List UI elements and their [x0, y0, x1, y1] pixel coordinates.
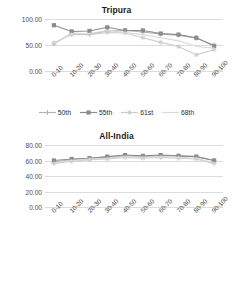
y-axis-tick-label: 100.00 [22, 16, 42, 23]
y-axis-tick-label: 0.00 [29, 68, 42, 75]
legend-marker-55th [80, 108, 97, 117]
y-axis-tick-label: 50.00 [25, 42, 42, 49]
legend-label: 61st [140, 109, 153, 116]
chart-panel-allindia: All-India 0.0020.0040.0060.0080.000-1010… [0, 128, 233, 285]
series-line-68th [54, 157, 214, 163]
y-axis-tick-label: 20.00 [25, 188, 42, 195]
legend-marker-61st [121, 108, 138, 117]
chart-title-tripura: Tripura [0, 0, 233, 15]
y-axis-tick-label: 40.00 [25, 173, 42, 180]
legend-marker-68th [162, 108, 179, 117]
y-axis-tick-label: 60.00 [25, 157, 42, 164]
series-line-68th [54, 30, 214, 48]
plot-area-tripura: 0.0050.00100.000-1010-2020-3030-4040-505… [0, 15, 233, 110]
legend-label: 55th [99, 109, 112, 116]
plot-area-allindia: 0.0020.0040.0060.0080.000-1010-2020-3030… [0, 141, 233, 246]
chart-legend-tripura: 50th55th61st68th [0, 108, 233, 117]
legend-label: 50th [58, 109, 71, 116]
plot-canvas [45, 145, 223, 207]
legend-item-50th[interactable]: 50th [39, 108, 71, 117]
series-line-50th [54, 30, 214, 45]
chart-panel-tripura: Tripura 0.0050.00100.000-1010-2020-3030-… [0, 0, 233, 128]
series-line-61st [54, 33, 214, 55]
y-axis-tick-label: 80.00 [25, 142, 42, 149]
legend-label: 68th [181, 109, 194, 116]
series-group [45, 145, 223, 207]
chart-title-allindia: All-India [0, 128, 233, 141]
legend-item-61st[interactable]: 61st [121, 108, 153, 117]
legend-item-68th[interactable]: 68th [162, 108, 194, 117]
legend-item-55th[interactable]: 55th [80, 108, 112, 117]
y-axis-tick-label: 0.00 [29, 204, 42, 211]
legend-marker-50th [39, 108, 56, 117]
